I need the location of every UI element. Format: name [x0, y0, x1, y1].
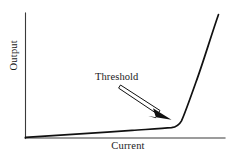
x-axis-label: Current: [0, 141, 232, 152]
y-axis-label: Output: [0, 0, 30, 158]
threshold-arrow: [119, 85, 172, 120]
threshold-annotation-label: Threshold: [95, 72, 138, 83]
figure-container: Output Current Threshold: [0, 0, 232, 158]
y-axis-label-text: Output: [9, 40, 20, 70]
